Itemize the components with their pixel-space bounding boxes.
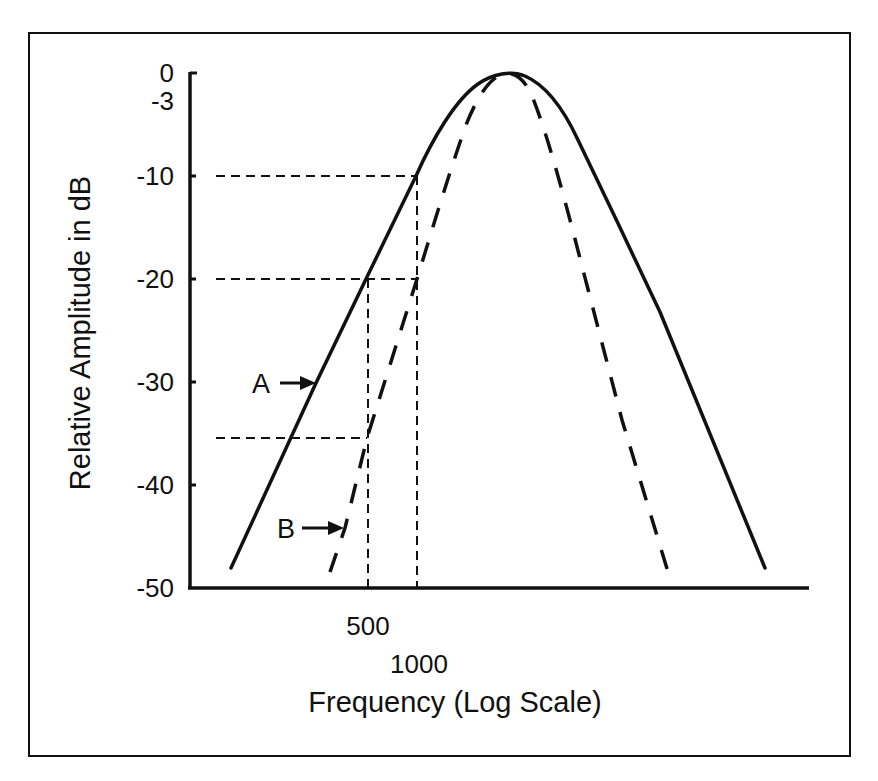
- y-axis-label: Relative Amplitude in dB: [64, 176, 96, 490]
- axes: [188, 72, 809, 589]
- x-tick-label-500: 500: [346, 611, 389, 641]
- y-tick-label: -40: [136, 470, 174, 500]
- curve-a-solid: [231, 73, 765, 568]
- chart-figure: Relative Amplitude in dB 0 -3 -10 -20 -3…: [0, 0, 878, 781]
- y-tick-label: -3: [151, 86, 174, 116]
- curve-b-label: B: [277, 514, 295, 544]
- annotation-b: B: [277, 514, 344, 544]
- x-axis-label: Frequency (Log Scale): [308, 686, 601, 718]
- chart-svg: Relative Amplitude in dB 0 -3 -10 -20 -3…: [0, 0, 878, 781]
- x-tick-labels: 500 1000: [346, 611, 448, 679]
- curve-a-label: A: [252, 369, 270, 399]
- y-tick-label: -20: [136, 264, 174, 294]
- y-tick-label: -10: [136, 161, 174, 191]
- y-tick-label: 0: [160, 58, 174, 88]
- curve-b-dashed: [330, 73, 668, 572]
- y-tick-label: -50: [136, 573, 174, 603]
- y-tick-label: -30: [136, 367, 174, 397]
- x-tick-label-1000: 1000: [390, 649, 448, 679]
- y-tick-labels: 0 -3 -10 -20 -30 -40 -50: [136, 58, 174, 603]
- annotation-a: A: [252, 369, 316, 399]
